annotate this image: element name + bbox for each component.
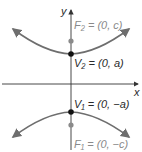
hyperbola-diagram: y x F₂ = (0, c) V₂ = (0, a) V₁ = (0, −a)… xyxy=(0,0,142,152)
lower-branch-right xyxy=(71,112,129,137)
focus-f1-point xyxy=(68,122,73,127)
focus-f2-point xyxy=(68,38,73,43)
upper-branch-left xyxy=(13,29,71,54)
x-axis-label: x xyxy=(133,86,140,98)
focus-f2-label: F₂ = (0, c) xyxy=(74,19,123,31)
lower-branch-left xyxy=(13,112,71,137)
upper-branch-right xyxy=(71,29,129,54)
vertex-v2-point xyxy=(68,51,74,57)
vertex-v1-label: V₁ = (0, −a) xyxy=(74,98,130,110)
y-axis-label: y xyxy=(60,5,68,17)
vertex-v1-point xyxy=(68,109,74,115)
focus-f1-label: F₁ = (0, −c) xyxy=(74,138,129,150)
vertex-v2-label: V₂ = (0, a) xyxy=(74,57,124,69)
